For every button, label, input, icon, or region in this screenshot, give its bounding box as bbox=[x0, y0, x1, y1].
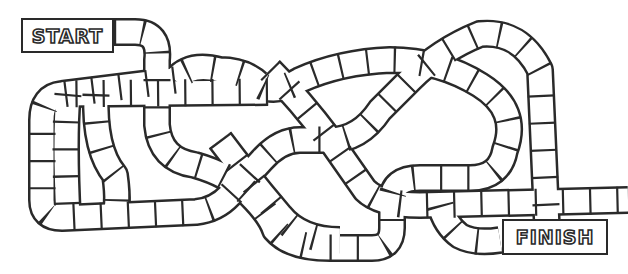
start-label-box: START bbox=[21, 18, 114, 53]
finish-label: FINISH bbox=[516, 226, 595, 248]
track-fill bbox=[42, 32, 628, 248]
start-label: START bbox=[32, 25, 104, 47]
finish-label-box: FINISH bbox=[502, 219, 608, 255]
